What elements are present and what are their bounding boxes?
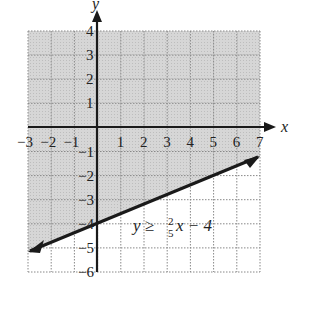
x-tick-label: 4 bbox=[186, 134, 194, 150]
x-tick-label: 2 bbox=[140, 134, 148, 150]
x-tick-label: −3 bbox=[17, 134, 33, 150]
y-tick-label: −5 bbox=[78, 240, 94, 256]
x-axis-label: x bbox=[280, 118, 288, 135]
x-axis-arrow-icon bbox=[264, 122, 276, 132]
svg-text:5: 5 bbox=[168, 227, 174, 239]
svg-text:y ≥: y ≥ bbox=[131, 216, 154, 235]
y-tick-label: 2 bbox=[86, 71, 94, 87]
x-tick-label: 6 bbox=[233, 134, 241, 150]
inequality-graph: x y −3−2−11234567 4321−1−2−3−4−5−6 y ≥ 2… bbox=[0, 0, 309, 332]
y-tick-label: −2 bbox=[78, 168, 94, 184]
y-tick-label: 3 bbox=[86, 47, 94, 63]
x-tick-label: 5 bbox=[210, 134, 218, 150]
inequality-label: y ≥ 2 5 x − 4 bbox=[131, 215, 213, 239]
y-tick-label: −4 bbox=[78, 216, 94, 232]
x-tick-label: 1 bbox=[117, 134, 125, 150]
y-axis-label: y bbox=[90, 0, 100, 13]
y-tick-label: 1 bbox=[86, 95, 94, 111]
svg-text:2: 2 bbox=[168, 215, 174, 227]
x-tick-label: −1 bbox=[63, 134, 79, 150]
x-tick-label: 3 bbox=[163, 134, 171, 150]
svg-text:x − 4: x − 4 bbox=[175, 216, 213, 235]
y-tick-label: 4 bbox=[86, 23, 94, 39]
y-tick-label: −3 bbox=[78, 192, 94, 208]
x-tick-label: 7 bbox=[256, 134, 264, 150]
y-tick-label: −1 bbox=[78, 144, 94, 160]
x-tick-label: −2 bbox=[40, 134, 56, 150]
y-tick-label: −6 bbox=[78, 264, 94, 280]
